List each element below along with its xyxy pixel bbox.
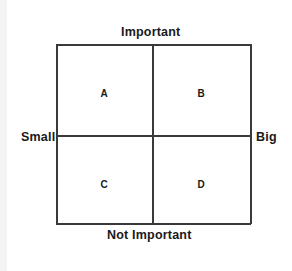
grid-border-left [56, 44, 58, 224]
axis-label-bottom: Not Important [107, 228, 192, 242]
quadrant-label-d: D [197, 179, 204, 190]
grid-border-top [56, 44, 251, 46]
quadrant-label-a: A [100, 88, 107, 99]
grid-divider-horizontal [56, 135, 251, 137]
axis-label-right: Big [256, 130, 277, 144]
quadrant-label-b: B [197, 88, 204, 99]
left-edge-strip [0, 0, 7, 271]
axis-label-top: Important [121, 25, 180, 39]
quadrant-label-c: C [100, 179, 107, 190]
grid-divider-vertical [152, 44, 154, 224]
axis-label-left: Small [21, 130, 55, 144]
quadrant-grid: A B C D [56, 44, 251, 224]
grid-border-right [250, 44, 252, 224]
grid-border-bottom [56, 223, 251, 225]
